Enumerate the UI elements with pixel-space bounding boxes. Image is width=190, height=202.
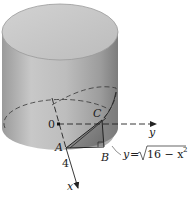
equation-radicand: 16 − x xyxy=(147,148,184,161)
cylinder-top xyxy=(2,4,118,60)
origin-point xyxy=(57,123,60,126)
origin-label: 0 xyxy=(48,118,55,131)
x-axis-label: x xyxy=(67,180,74,193)
curve-equation: y = 16 − x 2 xyxy=(122,146,187,161)
y-axis-label: y xyxy=(148,126,156,139)
cylinder-wedge-diagram: 0 y x A B C 4 y = 16 − x 2 xyxy=(0,0,190,202)
point-a-label: A xyxy=(54,141,63,154)
point-b-label: B xyxy=(100,151,109,164)
equation-lhs: y xyxy=(122,148,130,161)
point-c-label: C xyxy=(93,107,102,120)
equation-pointer xyxy=(112,146,121,155)
equation-exponent: 2 xyxy=(183,146,187,154)
radius-label: 4 xyxy=(62,157,69,170)
equation-equals: = xyxy=(130,148,139,161)
